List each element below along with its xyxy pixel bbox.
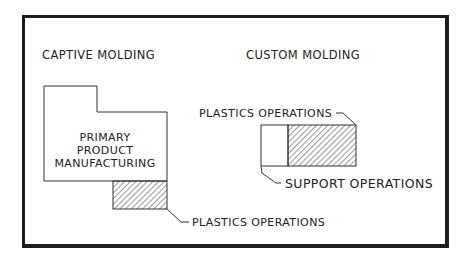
primary-label-line1: PRIMARY xyxy=(80,131,131,144)
captive-molding-title: CAPTIVE MOLDING xyxy=(42,48,155,62)
captive-plastics-label: PLASTICS OPERATIONS xyxy=(192,216,325,229)
support-operations-label: SUPPORT OPERATIONS xyxy=(285,176,433,191)
custom-molding-title: CUSTOM MOLDING xyxy=(246,48,360,62)
custom-plastics-leader-line xyxy=(336,113,356,125)
captive-plastics-hatched-block xyxy=(113,181,167,209)
primary-label-line2: PRODUCT xyxy=(77,144,134,157)
captive-plastics-leader-line xyxy=(167,209,189,222)
custom-plastics-hatched-block xyxy=(288,125,356,166)
custom-molding-diagram: PLASTICS OPERATIONS SUPPORT OPERATIONS xyxy=(199,107,433,191)
support-leader-line xyxy=(261,166,281,183)
primary-label-line3: MANUFACTURING xyxy=(54,157,155,170)
custom-plastics-label: PLASTICS OPERATIONS xyxy=(199,107,332,120)
molding-diagram: CAPTIVE MOLDING CUSTOM MOLDING PRIMARY P… xyxy=(0,0,469,261)
support-operations-block xyxy=(261,125,288,166)
